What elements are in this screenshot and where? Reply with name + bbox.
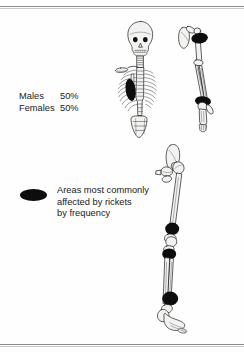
vertebral-column: [136, 68, 144, 116]
cervical-spine: [137, 56, 143, 68]
lower-limb: [156, 144, 187, 333]
stats-value-males: 50%: [60, 91, 79, 103]
distal-tibia-marker: [162, 292, 178, 306]
upper-limb: [179, 26, 214, 131]
humeral-head-marker: [191, 32, 209, 44]
clavicle: [128, 66, 138, 67]
stats-row-females: Females50%: [19, 103, 79, 115]
legend-line-3: by frequency: [57, 208, 149, 220]
black-ellipse-marker-icon: [20, 189, 47, 201]
ribcage-right: [144, 70, 156, 108]
stats-label-males: Males: [19, 91, 60, 103]
stats-row-males: Males50%: [19, 91, 79, 103]
legend-line-1: Areas most commonly: [57, 185, 149, 197]
femur-shaft: [170, 173, 181, 224]
foot: [157, 304, 186, 333]
patella: [166, 237, 177, 247]
rickets-skeleton-figure: Males50% Females50% Areas most commonly …: [0, 0, 244, 352]
legend-text: Areas most commonly affected by rickets …: [57, 185, 149, 220]
sex-distribution-stats: Males50% Females50%: [19, 91, 79, 114]
skull: [128, 21, 153, 56]
greater-trochanter: [173, 162, 184, 174]
axial-skeleton: [115, 21, 156, 137]
stats-label-females: Females: [19, 103, 60, 115]
distal-femur-marker: [165, 223, 179, 235]
hand: [198, 102, 213, 132]
stats-value-females: 50%: [60, 103, 79, 115]
skeleton-illustration: [0, 0, 244, 352]
distal-humerus: [194, 60, 203, 66]
legend-line-2: affected by rickets: [57, 197, 149, 209]
pubis: [156, 170, 161, 175]
sacrum: [131, 116, 147, 137]
ischium: [162, 176, 171, 182]
